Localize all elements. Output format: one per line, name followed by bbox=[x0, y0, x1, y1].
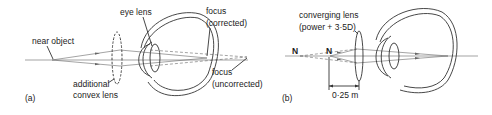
ray bbox=[357, 56, 448, 63]
eye-correction-diagram: near object eye lens focus (corrected) f… bbox=[0, 0, 492, 115]
ray bbox=[120, 50, 207, 58]
eyeball bbox=[376, 8, 457, 92]
label-additional-lens-sub: convex lens bbox=[73, 90, 118, 100]
leader-line bbox=[143, 17, 152, 46]
arrow-icon bbox=[95, 63, 100, 65]
ray bbox=[52, 60, 120, 66]
ray-uncorrected bbox=[150, 57, 247, 66]
eyeball-inner bbox=[144, 17, 214, 90]
panel-b-tag: (b) bbox=[282, 93, 293, 103]
ray bbox=[357, 49, 448, 56]
ray bbox=[330, 56, 357, 63]
label-point-n-near: N bbox=[326, 46, 332, 56]
ray bbox=[330, 49, 357, 56]
ray bbox=[52, 50, 120, 60]
arrow-icon bbox=[329, 85, 333, 88]
eye-lens bbox=[150, 44, 160, 72]
label-focus-corrected: focus bbox=[206, 6, 226, 16]
panel-a-tag: (a) bbox=[25, 93, 36, 103]
label-focus-uncorrected: focus bbox=[212, 67, 232, 77]
label-focus-uncorrected-sub: (uncorrected) bbox=[212, 79, 263, 89]
ray-virtual bbox=[300, 56, 357, 63]
label-near-object: near object bbox=[32, 36, 75, 46]
additional-convex-lens bbox=[112, 32, 122, 84]
panel-b: N N 0·25 m converging lens (power + 3·5D… bbox=[282, 8, 478, 103]
panel-a: near object eye lens focus (corrected) f… bbox=[25, 6, 263, 103]
label-additional-lens: additional bbox=[73, 79, 110, 89]
arrow-icon bbox=[355, 85, 359, 88]
label-distance: 0·25 m bbox=[332, 90, 358, 100]
label-point-n-far: N bbox=[292, 46, 298, 56]
ray-uncorrected bbox=[150, 50, 247, 57]
eyeball-inner bbox=[380, 14, 453, 88]
cornea bbox=[376, 38, 388, 76]
label-focus-corrected-sub: (corrected) bbox=[206, 18, 247, 28]
label-lens-power: (power + 3·5D) bbox=[299, 22, 356, 32]
leader-line bbox=[207, 28, 210, 56]
label-eye-lens: eye lens bbox=[120, 7, 152, 17]
leader-line bbox=[47, 46, 53, 59]
ray bbox=[120, 58, 207, 66]
label-converging-lens: converging lens bbox=[299, 10, 359, 20]
cornea-inner bbox=[381, 36, 391, 78]
